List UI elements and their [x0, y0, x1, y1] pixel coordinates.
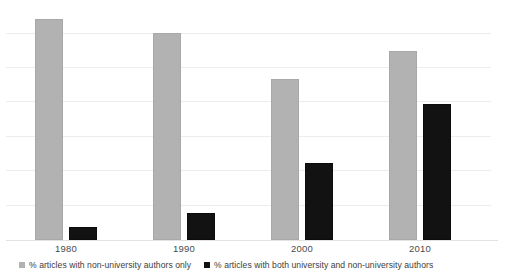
legend-item-label: % articles with both university and non-…: [214, 260, 433, 270]
bars-layer: [0, 0, 505, 241]
bar-series-b-2000[interactable]: [305, 163, 333, 240]
bar-series-b-2010[interactable]: [423, 104, 451, 240]
legend-swatch-icon: [19, 262, 25, 268]
x-tick-label-2010: 2010: [380, 243, 460, 254]
bar-series-b-1980[interactable]: [69, 227, 97, 240]
legend-item-label: % articles with non-university authors o…: [29, 260, 191, 270]
bar-chart: 1980 1990 2000 2010 % articles with non-…: [0, 0, 505, 277]
bar-series-a-2000[interactable]: [271, 79, 299, 240]
bar-series-a-1990[interactable]: [153, 33, 181, 240]
x-tick-label-1990: 1990: [144, 243, 224, 254]
bar-series-b-1990[interactable]: [187, 213, 215, 240]
x-axis: 1980 1990 2000 2010: [0, 241, 505, 259]
bar-series-a-1980[interactable]: [35, 19, 63, 240]
plot-area: [0, 0, 505, 241]
chart-legend: % articles with non-university authors o…: [0, 259, 505, 275]
legend-item-series-a[interactable]: % articles with non-university authors o…: [19, 260, 191, 270]
legend-item-series-b[interactable]: % articles with both university and non-…: [204, 260, 433, 270]
x-tick-label-1980: 1980: [26, 243, 106, 254]
x-tick-label-2000: 2000: [262, 243, 342, 254]
legend-swatch-icon: [204, 262, 210, 268]
bar-series-a-2010[interactable]: [389, 51, 417, 240]
